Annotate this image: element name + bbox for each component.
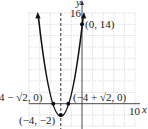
label-y-intercept: (0, 14)	[85, 18, 115, 31]
label-right-root: (−4 + √2, 0)	[73, 91, 127, 104]
point-vertex	[59, 113, 63, 117]
x-tick-label: 10	[129, 105, 141, 117]
y-tick-label: 16	[70, 7, 82, 19]
label-left-root: 4 − √2, 0)	[0, 91, 43, 104]
label-vertex: (−4, −2)	[19, 114, 56, 127]
point-left-root	[51, 102, 55, 106]
point-right-root	[66, 102, 70, 106]
point-y-intercept	[80, 22, 84, 26]
parabola-graph: y 16 10 x (0, 14) 4 − √2, 0) (−4 + √2, 0…	[0, 0, 148, 129]
x-axis-label: x	[141, 103, 147, 115]
